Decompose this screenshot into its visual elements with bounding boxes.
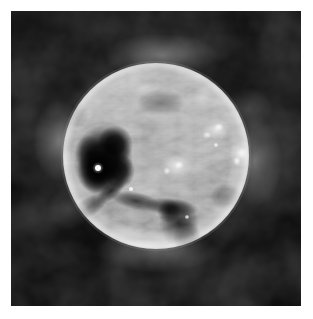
solar-image-frame (11, 11, 301, 306)
page-root (0, 0, 313, 319)
solar-corona-image (11, 11, 301, 306)
